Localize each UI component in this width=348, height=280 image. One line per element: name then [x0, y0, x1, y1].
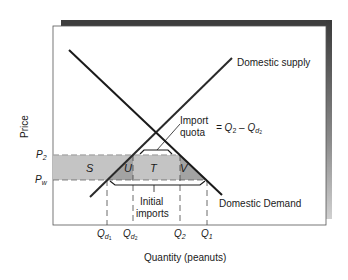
frame-shadow-right	[326, 20, 332, 219]
demand-label: Domestic Demand	[219, 198, 301, 209]
area-label-s: S	[86, 162, 94, 174]
quantity-tick-qd1: Qd1	[97, 228, 112, 241]
price-tick-p2: P2	[36, 149, 47, 161]
supply-label: Domestic supply	[237, 57, 310, 68]
initial-imports-label-line2: imports	[136, 208, 169, 219]
y-axis-label: Price	[19, 115, 30, 138]
area-label-u: U	[124, 162, 132, 174]
x-axis-label: Quantity (peanuts)	[144, 252, 226, 263]
quantity-tick-qd2: Qd2	[123, 228, 138, 241]
import-quota-label-line1: Import	[180, 115, 209, 126]
price-tick-pw: Pw	[35, 174, 48, 186]
quantity-tick-q1: Q1	[201, 228, 213, 240]
import-quota-label-line2: quota	[180, 127, 205, 138]
import-quota-diagram: S U T V Domestic supply Domestic Demand …	[0, 0, 348, 280]
quantity-tick-q2: Q2	[174, 228, 186, 240]
initial-imports-label-line1: Initial	[140, 196, 163, 207]
